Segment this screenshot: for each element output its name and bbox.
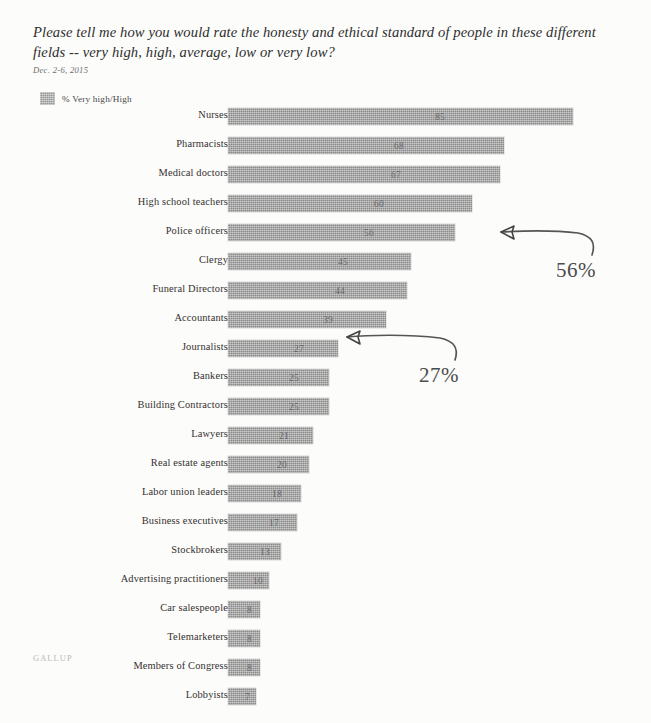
bar-container: 8 xyxy=(228,659,260,676)
bar-container: 67 xyxy=(228,166,500,183)
category-label: Medical doctors xyxy=(0,167,228,178)
value-bar: 45 xyxy=(228,253,411,270)
bar-value-label: 25 xyxy=(289,402,299,412)
value-bar: 67 xyxy=(228,166,500,183)
bar-container: 60 xyxy=(228,195,472,212)
bar-value-label: 56 xyxy=(364,228,374,238)
value-bar: 25 xyxy=(228,398,329,415)
category-label: Business executives xyxy=(0,515,228,526)
chart-row: Funeral Directors44 xyxy=(0,281,651,310)
bar-container: 21 xyxy=(228,427,313,444)
chart-row: Telemarketers8 xyxy=(0,629,651,658)
chart-row: Building Contractors25 xyxy=(0,397,651,426)
chart-row: Nurses85 xyxy=(0,107,651,136)
chart-row: Accountants39 xyxy=(0,310,651,339)
category-label: Pharmacists xyxy=(0,138,228,149)
bar-value-label: 8 xyxy=(247,663,252,673)
chart-row: Journalists27 xyxy=(0,339,651,368)
value-bar: 44 xyxy=(228,282,407,299)
chart-row: Lawyers21 xyxy=(0,426,651,455)
annotation-56-percent: 56% xyxy=(556,258,596,283)
bar-container: 68 xyxy=(228,137,504,154)
value-bar: 68 xyxy=(228,137,504,154)
chart-row: Car salespeople8 xyxy=(0,600,651,629)
value-bar: 17 xyxy=(228,514,297,531)
chart-row: Real estate agents20 xyxy=(0,455,651,484)
value-bar: 8 xyxy=(228,601,260,618)
category-label: Clergy xyxy=(0,254,228,265)
chart-row: Advertising practitioners10 xyxy=(0,571,651,600)
value-bar: 27 xyxy=(228,340,338,357)
legend-square-icon xyxy=(40,92,55,105)
bar-value-label: 8 xyxy=(247,634,252,644)
value-bar: 8 xyxy=(228,630,260,647)
bar-value-label: 39 xyxy=(323,315,333,325)
bar-value-label: 7 xyxy=(245,692,250,702)
chart-legend: % Very high/High xyxy=(40,92,132,105)
chart-row: Police officers56 xyxy=(0,223,651,252)
legend-label: % Very high/High xyxy=(62,94,132,104)
bar-value-label: 68 xyxy=(394,141,404,151)
value-bar: 8 xyxy=(228,659,260,676)
bar-value-label: 10 xyxy=(253,576,263,586)
category-label: Lawyers xyxy=(0,428,228,439)
bar-value-label: 20 xyxy=(277,460,287,470)
value-bar: 39 xyxy=(228,311,386,328)
chart-row: Medical doctors67 xyxy=(0,165,651,194)
chart-header: Please tell me how you would rate the ho… xyxy=(33,22,613,75)
bar-container: 39 xyxy=(228,311,386,328)
category-label: Lobbyists xyxy=(0,689,228,700)
value-bar: 18 xyxy=(228,485,301,502)
bar-value-label: 27 xyxy=(294,344,304,354)
value-bar: 25 xyxy=(228,369,329,386)
bar-value-label: 8 xyxy=(247,605,252,615)
bar-value-label: 85 xyxy=(435,112,445,122)
bar-container: 45 xyxy=(228,253,411,270)
bar-value-label: 21 xyxy=(279,431,289,441)
value-bar: 56 xyxy=(228,224,455,241)
bar-container: 10 xyxy=(228,572,269,589)
category-label: Telemarketers xyxy=(0,631,228,642)
category-label: High school teachers xyxy=(0,196,228,207)
value-bar: 13 xyxy=(228,543,281,560)
bar-container: 18 xyxy=(228,485,301,502)
category-label: Police officers xyxy=(0,225,228,236)
bar-value-label: 25 xyxy=(289,373,299,383)
chart-row: Lobbyists7 xyxy=(0,687,651,716)
chart-row: High school teachers60 xyxy=(0,194,651,223)
bar-container: 25 xyxy=(228,398,329,415)
bar-container: 85 xyxy=(228,108,573,125)
value-bar: 7 xyxy=(228,688,256,705)
chart-row: Bankers25 xyxy=(0,368,651,397)
bar-container: 27 xyxy=(228,340,338,357)
chart-row: Stockbrokers13 xyxy=(0,542,651,571)
value-bar: 85 xyxy=(228,108,573,125)
bar-container: 17 xyxy=(228,514,297,531)
bar-chart-plot-area: Nurses85Pharmacists68Medical doctors67Hi… xyxy=(0,107,651,716)
category-label: Funeral Directors xyxy=(0,283,228,294)
bar-value-label: 45 xyxy=(338,257,348,267)
category-label: Advertising practitioners xyxy=(0,573,228,584)
value-bar: 10 xyxy=(228,572,269,589)
bar-container: 7 xyxy=(228,688,256,705)
chart-row: Members of Congress8 xyxy=(0,658,651,687)
gallup-logo: GALLUP xyxy=(33,654,73,663)
bar-value-label: 17 xyxy=(269,518,279,528)
bar-value-label: 67 xyxy=(391,170,401,180)
category-label: Real estate agents xyxy=(0,457,228,468)
chart-question-title: Please tell me how you would rate the ho… xyxy=(33,22,613,62)
bar-container: 8 xyxy=(228,601,260,618)
value-bar: 20 xyxy=(228,456,309,473)
bar-container: 56 xyxy=(228,224,455,241)
bar-container: 20 xyxy=(228,456,309,473)
category-label: Car salespeople xyxy=(0,602,228,613)
bar-container: 13 xyxy=(228,543,281,560)
bar-value-label: 18 xyxy=(272,489,282,499)
bar-container: 25 xyxy=(228,369,329,386)
value-bar: 60 xyxy=(228,195,472,212)
category-label: Labor union leaders xyxy=(0,486,228,497)
category-label: Nurses xyxy=(0,109,228,120)
chart-row: Business executives17 xyxy=(0,513,651,542)
bar-container: 44 xyxy=(228,282,407,299)
category-label: Journalists xyxy=(0,341,228,352)
